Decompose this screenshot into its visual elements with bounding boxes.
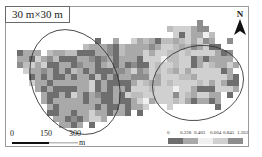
map-title: 30 m×30 m — [5, 6, 70, 23]
raster-cell — [167, 104, 173, 110]
scale-unit: m — [79, 139, 85, 147]
north-arrow-icon — [233, 19, 247, 37]
scale-tick-300: 300 — [69, 130, 81, 138]
scale-bar: 0 150 300 m — [8, 130, 98, 148]
legend-swatch-1 — [183, 138, 198, 144]
north-label: N — [233, 10, 247, 19]
raster-cell — [227, 92, 233, 98]
legend-break-5: 1.263 — [237, 130, 248, 136]
scale-bar-light-segment — [49, 142, 78, 144]
raster-cell — [143, 104, 149, 110]
raster-cell — [215, 104, 221, 110]
scale-tick-150: 150 — [40, 130, 52, 138]
raster-cell — [233, 62, 239, 68]
raster-cell — [233, 86, 239, 92]
raster-cell — [77, 122, 83, 128]
scale-bar-dark-segment — [12, 142, 49, 144]
scale-tick-0: 0 — [10, 130, 14, 138]
legend-break-0: 0 — [167, 130, 170, 136]
raster-cell — [125, 110, 131, 116]
raster-cell — [89, 122, 95, 128]
legend-swatch-0 — [168, 138, 183, 144]
legend-break-2: 0.403 — [194, 130, 205, 136]
raster-cell — [137, 110, 143, 116]
legend-swatch-4 — [228, 138, 243, 144]
north-arrow: N — [233, 10, 247, 36]
legend-break-4: 0.845 — [223, 130, 234, 136]
legend: 0 0.228 0.403 0.604 0.845 1.263 — [166, 130, 246, 148]
raster-cell — [227, 38, 233, 44]
legend-swatch-3 — [213, 138, 228, 144]
legend-break-1: 0.228 — [180, 130, 191, 136]
legend-swatch-2 — [198, 138, 213, 144]
raster-cell — [101, 116, 107, 122]
legend-break-3: 0.604 — [210, 130, 221, 136]
